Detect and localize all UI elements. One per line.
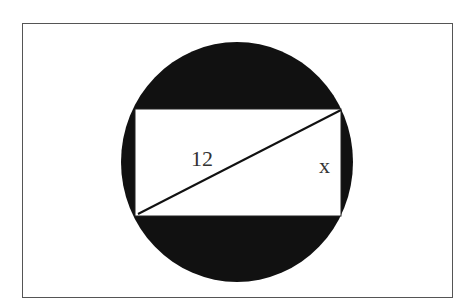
diagonal-label: 12 [191,146,213,171]
side-label: x [319,153,330,178]
diagram-canvas: 12 x [0,0,470,307]
